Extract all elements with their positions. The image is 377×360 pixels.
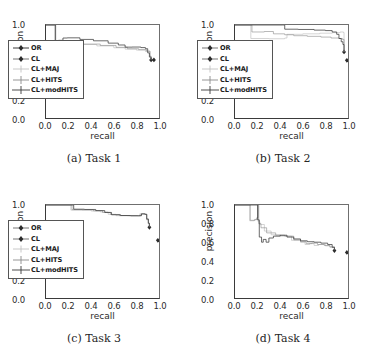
legend-item-or[interactable]: OR (200, 43, 270, 54)
x-axis-label-d: recall (234, 311, 349, 321)
caption-b: (b) Task 2 (189, 152, 377, 165)
legend-label-cl-modhits: CL+modHITS (220, 86, 267, 94)
legend-b: OR CL CL+MAJ CL+HITS (197, 40, 273, 99)
ytick-d-1: 0.2 (188, 276, 214, 286)
x-axis-label-b: recall (234, 131, 349, 141)
plus-marker-icon (200, 64, 220, 74)
xtick-c-3: 0.6 (102, 301, 126, 311)
panel-task-2: 1.0 0.8 0.6 0.4 0.2 0.0 0.0 0.2 0.4 0.6 … (189, 0, 377, 180)
legend-a: OR CL CL+MAJ CL+HITS (8, 40, 84, 99)
legend-label-cl: CL (31, 235, 40, 243)
legend-label-or: OR (31, 224, 41, 232)
legend-label-cl-modhits: CL+modHITS (31, 266, 78, 274)
figure-grid: 1.0 0.8 0.6 0.4 0.2 0.0 0.0 0.2 0.4 0.6 … (0, 0, 377, 360)
legend-label-cl-hits: CL+HITS (31, 256, 62, 264)
legend-item-cl-hits[interactable]: CL+HITS (200, 75, 270, 86)
diamond-marker-icon (11, 223, 31, 233)
xtick-b-0: 0.0 (222, 121, 246, 131)
legend-label-cl-modhits: CL+modHITS (31, 86, 78, 94)
panel-task-3: 1.0 0.8 0.6 0.4 0.2 0.0 0.0 0.2 0.4 0.6 … (0, 180, 188, 360)
legend-item-cl-hits[interactable]: CL+HITS (11, 75, 81, 86)
legend-item-cl-modhits[interactable]: CL+modHITS (200, 85, 270, 96)
xtick-a-4: 0.8 (125, 121, 149, 131)
diamond-marker-icon (200, 43, 220, 53)
legend-label-or: OR (31, 44, 41, 52)
legend-item-cl-maj[interactable]: CL+MAJ (11, 64, 81, 75)
ytick-b-0: 0.0 (188, 115, 214, 125)
xtick-d-0: 0.0 (222, 301, 246, 311)
legend-label-cl-hits: CL+HITS (31, 76, 62, 84)
xtick-b-5: 1.0 (337, 121, 361, 131)
legend-label-cl-hits: CL+HITS (220, 76, 251, 84)
legend-item-cl-modhits[interactable]: CL+modHITS (11, 265, 81, 276)
xtick-b-2: 0.4 (268, 121, 292, 131)
marker-cl (152, 58, 156, 63)
diamond-marker-icon (11, 54, 31, 64)
xtick-a-5: 1.0 (148, 121, 172, 131)
legend-item-cl[interactable]: CL (11, 54, 81, 65)
plot-area-d (234, 204, 349, 299)
plus-marker-icon (200, 85, 220, 95)
xtick-a-0: 0.0 (33, 121, 57, 131)
diamond-marker-icon (11, 43, 31, 53)
diamond-marker-icon (11, 234, 31, 244)
x-axis-label-a: recall (45, 131, 160, 141)
series-line-cl-maj (235, 205, 334, 250)
legend-label-cl: CL (220, 55, 229, 63)
xtick-c-1: 0.2 (56, 301, 80, 311)
plus-marker-icon (11, 255, 31, 265)
diamond-marker-icon (200, 54, 220, 64)
plus-marker-icon (200, 75, 220, 85)
plot-curves-d (235, 205, 348, 298)
xtick-d-4: 0.8 (314, 301, 338, 311)
xtick-d-3: 0.6 (291, 301, 315, 311)
panel-task-1: 1.0 0.8 0.6 0.4 0.2 0.0 0.0 0.2 0.4 0.6 … (0, 0, 188, 180)
legend-item-or[interactable]: OR (11, 43, 81, 54)
xtick-d-2: 0.4 (268, 301, 292, 311)
y-axis-label-d: precision (204, 191, 214, 271)
xtick-c-0: 0.0 (33, 301, 57, 311)
marker-cl (345, 58, 348, 63)
legend-item-cl-modhits[interactable]: CL+modHITS (11, 85, 81, 96)
ytick-a-0: 0.0 (0, 115, 25, 125)
legend-item-or[interactable]: OR (11, 223, 81, 234)
caption-c: (c) Task 3 (0, 332, 188, 345)
legend-label-cl-maj: CL+MAJ (220, 65, 248, 73)
ytick-d-0: 0.0 (188, 295, 214, 305)
legend-label-or: OR (220, 44, 230, 52)
plus-marker-icon (11, 75, 31, 85)
xtick-c-4: 0.8 (125, 301, 149, 311)
xtick-c-2: 0.4 (79, 301, 103, 311)
x-axis-label-c: recall (45, 311, 160, 321)
xtick-a-2: 0.4 (79, 121, 103, 131)
marker-cl (345, 250, 348, 255)
marker-cl (156, 238, 159, 243)
plus-marker-icon (11, 244, 31, 254)
xtick-c-5: 1.0 (148, 301, 172, 311)
xtick-b-4: 0.8 (314, 121, 338, 131)
xtick-a-3: 0.6 (102, 121, 126, 131)
plus-marker-icon (11, 64, 31, 74)
legend-item-cl-maj[interactable]: CL+MAJ (200, 64, 270, 75)
panel-task-4: 1.0 0.8 0.6 0.4 0.2 0.0 0.0 0.2 0.4 0.6 … (189, 180, 377, 360)
xtick-d-5: 1.0 (337, 301, 361, 311)
xtick-b-3: 0.6 (291, 121, 315, 131)
legend-item-cl[interactable]: CL (200, 54, 270, 65)
legend-item-cl-maj[interactable]: CL+MAJ (11, 244, 81, 255)
caption-d: (d) Task 4 (189, 332, 377, 345)
legend-label-cl-maj: CL+MAJ (31, 65, 59, 73)
plus-marker-icon (11, 85, 31, 95)
xtick-a-1: 0.2 (56, 121, 80, 131)
legend-item-cl[interactable]: CL (11, 234, 81, 245)
plus-marker-icon (11, 265, 31, 275)
legend-label-cl-maj: CL+MAJ (31, 245, 59, 253)
legend-c: OR CL CL+MAJ CL+HITS (8, 220, 84, 279)
xtick-b-1: 0.2 (245, 121, 269, 131)
xtick-d-1: 0.2 (245, 301, 269, 311)
legend-item-cl-hits[interactable]: CL+HITS (11, 255, 81, 266)
ytick-c-0: 0.0 (0, 295, 25, 305)
legend-label-cl: CL (31, 55, 40, 63)
caption-a: (a) Task 1 (0, 152, 188, 165)
